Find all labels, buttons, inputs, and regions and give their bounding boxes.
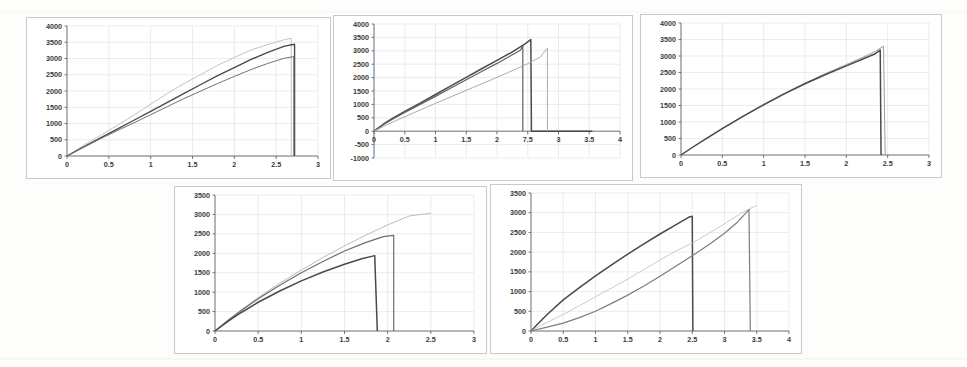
y-axis-tick-label: 500	[514, 307, 526, 316]
y-axis-tick-label: 1000	[353, 100, 369, 109]
x-axis-tick-label: 0.5	[104, 160, 114, 169]
y-axis-tick-label: 4000	[353, 20, 369, 29]
y-axis-tick-label: 2500	[46, 70, 62, 79]
y-axis-tick-label: 2000	[194, 249, 210, 258]
chart-panel-2: -1000-5000500100015002000250030003500400…	[333, 15, 633, 181]
panel-1-plot: 0500100015002000250030003500400000.511.5…	[27, 18, 330, 178]
y-axis-tick-label: 3000	[353, 46, 369, 55]
y-axis-tick-label: 1500	[510, 267, 526, 276]
y-axis-tick-label: 3000	[660, 52, 676, 61]
y-axis-tick-label: 4000	[46, 22, 62, 31]
y-axis-tick-label: 1000	[660, 118, 676, 127]
panel-5-plot: 050010001500200025003000350000.511.522.5…	[491, 185, 801, 353]
x-axis-tick-label: 3	[472, 335, 476, 344]
y-axis-tick-label: 1500	[353, 87, 369, 96]
y-axis-tick-label: 1000	[194, 288, 210, 297]
x-axis-tick-label: 0	[372, 135, 376, 144]
y-axis-tick-label: 2500	[660, 68, 676, 77]
y-axis-tick-label: 2000	[660, 85, 676, 94]
x-axis-tick-label: 1	[594, 335, 598, 344]
x-axis-tick-label: 2.5	[883, 159, 893, 168]
figure-canvas: 0500100015002000250030003500400000.511.5…	[0, 0, 967, 367]
y-axis-tick-label: 0	[58, 152, 62, 161]
x-axis-tick-label: 0	[529, 335, 533, 344]
x-axis-tick-label: 2.5	[426, 335, 436, 344]
y-axis-tick-label: 4000	[660, 19, 676, 28]
chart-panel-4: 050010001500200025003000350000.511.522.5…	[174, 186, 487, 354]
data-curve	[215, 256, 377, 331]
x-axis-tick-label: 3	[557, 135, 561, 144]
y-axis-tick-label: 2500	[194, 229, 210, 238]
y-axis-tick-label: 0	[522, 327, 526, 336]
x-axis-tick-label: 2	[386, 335, 390, 344]
data-curve	[374, 48, 547, 131]
x-axis-tick-label: 0.5	[253, 335, 263, 344]
x-axis-tick-label: 1.5	[340, 335, 350, 344]
y-axis-tick-label: 2500	[353, 60, 369, 69]
y-axis-tick-label: 1000	[510, 287, 526, 296]
x-axis-tick-label: 1.5	[800, 159, 810, 168]
x-axis-tick-label: 3	[316, 160, 320, 169]
x-axis-tick-label: 1	[762, 159, 766, 168]
y-axis-tick-label: 3500	[510, 189, 526, 198]
x-axis-tick-label: 1.5	[623, 335, 633, 344]
x-axis-tick-label: 3.5	[752, 335, 762, 344]
x-axis-tick-label: 1.5	[188, 160, 198, 169]
x-axis-tick-label: 0.5	[400, 135, 410, 144]
x-axis-tick-label: 4	[787, 335, 791, 344]
data-curve	[215, 235, 394, 331]
panel-4-plot: 050010001500200025003000350000.511.522.5…	[175, 187, 486, 353]
y-axis-tick-label: 500	[198, 307, 210, 316]
x-axis-tick-label: 3	[723, 335, 727, 344]
panel-2-plot: -1000-5000500100015002000250030003500400…	[334, 16, 632, 180]
panel-3-plot: 0500100015002000250030003500400000.511.5…	[641, 15, 941, 177]
x-axis-tick-label: 3.5	[584, 135, 594, 144]
y-axis-tick-label: 500	[664, 134, 676, 143]
x-axis-tick-label: 2.5	[687, 335, 697, 344]
x-axis-tick-label: 0	[213, 335, 217, 344]
y-axis-tick-label: 500	[50, 135, 62, 144]
x-axis-tick-label: 2.5	[271, 160, 281, 169]
x-axis-tick-label: 0.5	[717, 159, 727, 168]
y-axis-tick-label: 3000	[510, 208, 526, 217]
y-axis-tick-label: 1500	[194, 268, 210, 277]
x-axis-tick-label: 1	[299, 335, 303, 344]
x-axis-tick-label: 0.5	[558, 335, 568, 344]
y-axis-tick-label: 3500	[353, 33, 369, 42]
x-axis-tick-label: 1	[149, 160, 153, 169]
chart-panel-3: 0500100015002000250030003500400000.511.5…	[640, 14, 942, 178]
x-axis-tick-label: 1.5	[461, 135, 471, 144]
chart-panel-1: 0500100015002000250030003500400000.511.5…	[26, 17, 331, 179]
y-axis-tick-label: 1500	[46, 103, 62, 112]
y-axis-tick-label: 0	[672, 151, 676, 160]
chart-panel-5: 050010001500200025003000350000.511.522.5…	[490, 184, 802, 354]
x-axis-tick-label: 4	[618, 135, 622, 144]
y-axis-tick-label: 2000	[510, 248, 526, 257]
x-axis-tick-label: 2	[658, 335, 662, 344]
y-axis-tick-label: 3500	[46, 38, 62, 47]
x-axis-tick-label: 0	[65, 160, 69, 169]
y-axis-tick-label: -1000	[351, 154, 369, 163]
x-axis-tick-label: 0	[679, 159, 683, 168]
y-axis-tick-label: 2000	[46, 87, 62, 96]
x-axis-tick-label: 2	[495, 135, 499, 144]
x-axis-tick-label: 1	[434, 135, 438, 144]
y-axis-tick-label: 2000	[353, 73, 369, 82]
x-axis-tick-label: 2	[844, 159, 848, 168]
y-axis-tick-label: 3000	[46, 54, 62, 63]
x-axis-tick-label: 7.5	[523, 135, 533, 144]
y-axis-tick-label: 1500	[660, 101, 676, 110]
y-axis-tick-label: 0	[365, 127, 369, 136]
y-axis-tick-label: 2500	[510, 228, 526, 237]
x-axis-tick-label: 2	[232, 160, 236, 169]
y-axis-tick-label: 3500	[660, 35, 676, 44]
x-axis-tick-label: 3	[927, 159, 931, 168]
y-axis-tick-label: 3000	[194, 210, 210, 219]
data-curve	[67, 57, 294, 156]
y-axis-tick-label: 3500	[194, 191, 210, 200]
data-curve	[531, 206, 757, 331]
data-curve	[681, 50, 881, 155]
y-axis-tick-label: 500	[357, 113, 369, 122]
y-axis-tick-label: 0	[206, 327, 210, 336]
y-axis-tick-label: -500	[355, 140, 369, 149]
